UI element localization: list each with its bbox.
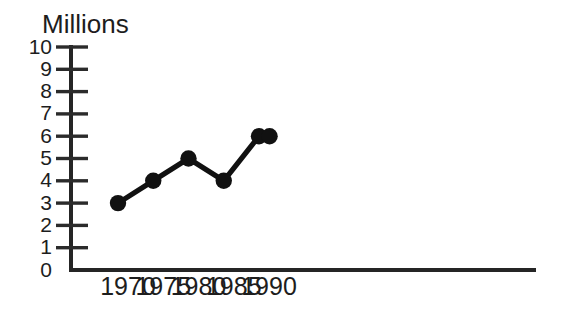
chart-canvas: Millions 012345678910 197019751980198519… [0, 0, 565, 312]
data-point-markers [110, 128, 278, 211]
data-point-marker [145, 173, 161, 189]
data-point-marker [110, 195, 126, 211]
y-axis-title: Millions [42, 9, 129, 39]
y-axis-tick-label: 0 [40, 258, 52, 281]
data-point-marker [216, 173, 232, 189]
line-chart-figure: Millions 012345678910 197019751980198519… [0, 0, 565, 312]
data-series-line [118, 136, 270, 203]
y-axis-tick-labels: 012345678910 [29, 35, 53, 281]
data-point-marker [180, 150, 196, 166]
y-axis-tick-label: 2 [40, 213, 52, 236]
y-axis-tick-label: 6 [40, 124, 52, 147]
x-axis-tick-labels: 19701975198019851990 [100, 272, 297, 300]
y-axis-tick-label: 10 [29, 35, 52, 58]
y-axis-tick-label: 1 [40, 235, 52, 258]
y-axis-tick-label: 3 [40, 191, 52, 214]
y-axis-tick-label: 9 [40, 57, 52, 80]
y-axis-tick-label: 4 [40, 168, 52, 191]
y-axis-tick-label: 8 [40, 79, 52, 102]
y-axis-tick-label: 5 [40, 146, 52, 169]
data-point-marker [261, 128, 277, 144]
y-axis-tick-label: 7 [40, 101, 52, 124]
x-axis-tick-label: 1990 [241, 272, 297, 300]
